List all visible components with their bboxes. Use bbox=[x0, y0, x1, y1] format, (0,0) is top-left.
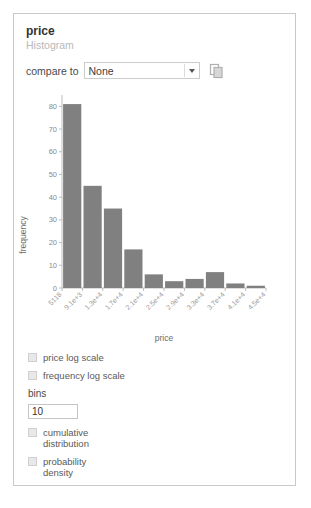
svg-text:80: 80 bbox=[49, 102, 57, 111]
y-axis: 01020304050607080 bbox=[49, 95, 62, 293]
chevron-down-icon bbox=[189, 69, 195, 73]
price-log-scale-checkbox[interactable] bbox=[28, 353, 37, 362]
svg-text:4.1e+4: 4.1e+4 bbox=[226, 291, 246, 311]
svg-text:50: 50 bbox=[49, 170, 57, 179]
svg-text:2.5e+4: 2.5e+4 bbox=[144, 291, 164, 311]
bar bbox=[165, 281, 183, 288]
svg-text:3.7e+4: 3.7e+4 bbox=[206, 291, 226, 311]
svg-text:4.5e+4: 4.5e+4 bbox=[246, 291, 266, 311]
copy-icon[interactable] bbox=[205, 63, 225, 79]
bins-label: bins bbox=[28, 388, 283, 399]
probability-density-checkbox[interactable] bbox=[28, 457, 37, 466]
svg-text:3.3e+4: 3.3e+4 bbox=[185, 291, 205, 311]
compare-to-select[interactable]: None bbox=[84, 62, 200, 79]
compare-to-row: compare to None bbox=[26, 62, 283, 79]
chart-svg: 01020304050607080 51189.1e+31.3e+41.7e+4… bbox=[14, 85, 273, 350]
price-log-scale-label: price log scale bbox=[43, 352, 104, 363]
bins-input[interactable] bbox=[28, 404, 78, 419]
compare-to-value: None bbox=[85, 65, 114, 77]
bar bbox=[206, 272, 224, 288]
svg-text:2.1e+4: 2.1e+4 bbox=[124, 291, 144, 311]
chart-controls: price log scale frequency log scale bins… bbox=[14, 350, 295, 478]
price-log-scale-row[interactable]: price log scale bbox=[28, 352, 283, 363]
chart-type-subtitle: Histogram bbox=[26, 39, 283, 52]
cumulative-distribution-label: cumulative distribution bbox=[43, 427, 113, 449]
svg-text:70: 70 bbox=[49, 125, 57, 134]
bar bbox=[63, 104, 81, 288]
frequency-log-scale-checkbox[interactable] bbox=[28, 371, 37, 380]
svg-text:1.7e+4: 1.7e+4 bbox=[104, 291, 124, 311]
page-title: price bbox=[26, 24, 283, 38]
svg-text:10: 10 bbox=[49, 261, 57, 270]
svg-text:60: 60 bbox=[49, 147, 57, 156]
svg-text:40: 40 bbox=[49, 193, 57, 202]
bar bbox=[84, 186, 102, 288]
bar bbox=[226, 283, 244, 288]
histogram-chart: 01020304050607080 51189.1e+31.3e+41.7e+4… bbox=[14, 85, 273, 350]
card-header: price Histogram compare to None bbox=[14, 14, 295, 79]
cumulative-distribution-row[interactable]: cumulative distribution bbox=[28, 427, 283, 449]
svg-text:2.9e+4: 2.9e+4 bbox=[165, 291, 185, 311]
bars bbox=[63, 104, 265, 288]
bar bbox=[186, 279, 204, 288]
x-axis-label: price bbox=[155, 333, 174, 343]
svg-text:20: 20 bbox=[49, 238, 57, 247]
x-axis: 51189.1e+31.3e+41.7e+42.1e+42.5e+42.9e+4… bbox=[47, 288, 267, 311]
bar bbox=[104, 209, 122, 288]
bar bbox=[247, 286, 265, 288]
svg-text:30: 30 bbox=[49, 215, 57, 224]
probability-density-row[interactable]: probability density bbox=[28, 456, 283, 478]
histogram-card: price Histogram compare to None 01020304… bbox=[13, 13, 296, 486]
compare-to-label: compare to bbox=[26, 65, 79, 77]
svg-text:1.3e+4: 1.3e+4 bbox=[83, 291, 103, 311]
svg-text:9.1e+3: 9.1e+3 bbox=[63, 291, 83, 311]
svg-text:5118: 5118 bbox=[47, 291, 63, 307]
y-axis-label: frequency bbox=[18, 216, 28, 254]
bar bbox=[145, 274, 163, 288]
frequency-log-scale-label: frequency log scale bbox=[43, 370, 125, 381]
bar bbox=[124, 249, 142, 288]
frequency-log-scale-row[interactable]: frequency log scale bbox=[28, 370, 283, 381]
select-divider bbox=[184, 64, 185, 77]
probability-density-label: probability density bbox=[43, 456, 113, 478]
cumulative-distribution-checkbox[interactable] bbox=[28, 428, 37, 437]
